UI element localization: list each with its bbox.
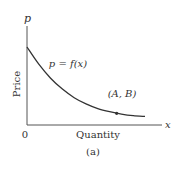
x-axis-symbol: x xyxy=(165,119,171,130)
demand-chart: p x Price Quantity 0 p = f(x) (A, B) (a) xyxy=(0,0,173,170)
x-tick-0: 0 xyxy=(22,129,28,140)
point-label: (A, B) xyxy=(108,88,137,99)
y-axis-symbol: p xyxy=(24,12,31,25)
point-a-b xyxy=(115,112,118,115)
curve-label: p = f(x) xyxy=(49,58,87,69)
x-axis-label: Quantity xyxy=(76,129,120,140)
y-axis-label: Price xyxy=(11,71,22,97)
figure-caption: (a) xyxy=(86,146,100,157)
